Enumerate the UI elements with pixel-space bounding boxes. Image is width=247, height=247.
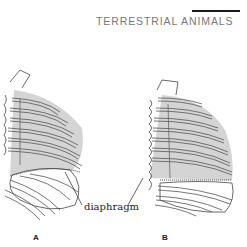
ribcage-a — [4, 70, 83, 220]
diaphragm-label: diaphragm — [84, 201, 139, 212]
panel-label-b: B — [162, 233, 168, 242]
panel-label-a: A — [33, 233, 39, 242]
ribcage-b — [149, 80, 233, 216]
